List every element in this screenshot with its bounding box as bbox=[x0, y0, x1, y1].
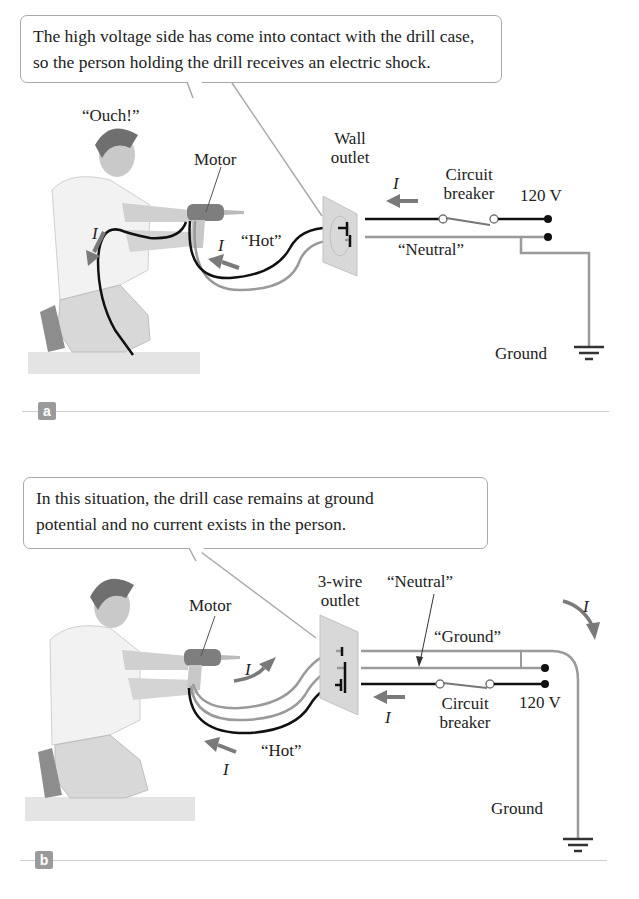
current-label-cord-up: I bbox=[245, 660, 251, 679]
callout-line-2: potential and no current exists in the p… bbox=[36, 511, 477, 537]
hot-terminal bbox=[541, 680, 549, 688]
neutral-terminal bbox=[541, 664, 549, 672]
ground-symbol-icon bbox=[563, 839, 593, 851]
label-neutral: “Neutral” bbox=[387, 572, 453, 591]
breaker-contact-left bbox=[436, 680, 444, 688]
neutral-cord bbox=[191, 668, 338, 720]
three-wire-outlet-plate bbox=[320, 615, 358, 715]
label-three-wire-outlet: 3-wire outlet bbox=[310, 572, 370, 610]
current-label-ground: I bbox=[583, 597, 589, 616]
current-label-wall: I bbox=[385, 708, 391, 727]
drill bbox=[184, 649, 240, 690]
floor bbox=[25, 797, 195, 821]
label-ground: Ground bbox=[491, 799, 543, 818]
current-arrow-wall bbox=[373, 690, 405, 704]
label-ground-wire: “Ground” bbox=[434, 627, 501, 646]
callout-pointer bbox=[197, 549, 316, 638]
panel-b-drawing bbox=[0, 0, 639, 899]
panel-b-tag: b bbox=[35, 851, 53, 869]
person-figure bbox=[38, 579, 198, 798]
breaker-switch bbox=[443, 683, 487, 688]
current-arrow-ground bbox=[563, 601, 600, 640]
callout-line-1: In this situation, the drill case remain… bbox=[36, 485, 477, 511]
label-voltage: 120 V bbox=[519, 693, 561, 712]
current-arrow-cord-up bbox=[234, 657, 276, 681]
current-arrow-hot bbox=[204, 737, 236, 752]
panel-b-divider bbox=[20, 860, 607, 861]
ground-wire bbox=[361, 651, 578, 839]
panel-b-callout: In this situation, the drill case remain… bbox=[23, 477, 488, 549]
label-motor: Motor bbox=[189, 596, 232, 615]
label-hot: “Hot” bbox=[261, 741, 302, 760]
hot-cord bbox=[189, 685, 338, 733]
label-circuit-breaker: Circuit breaker bbox=[427, 694, 503, 732]
current-label-hot: I bbox=[223, 760, 229, 779]
breaker-contact-right bbox=[486, 680, 494, 688]
